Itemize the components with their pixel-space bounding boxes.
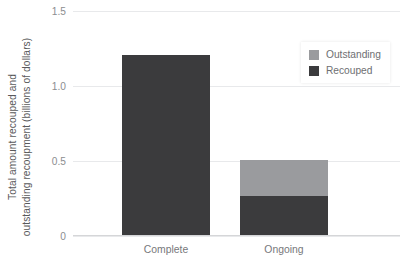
- y-tick-label: 0: [60, 231, 66, 242]
- gridline-0: [73, 236, 400, 237]
- y-tick-label: 1.5: [52, 6, 66, 17]
- x-axis-label-complete: Complete: [144, 244, 188, 255]
- legend: Outstanding Recouped: [301, 42, 390, 83]
- legend-item-outstanding[interactable]: Outstanding: [309, 49, 381, 60]
- bar-segment-recouped[interactable]: [240, 196, 328, 235]
- bar-complete[interactable]: Complete: [122, 55, 210, 235]
- y-axis-title: Total amount recouped and outstanding re…: [0, 0, 40, 274]
- legend-label-outstanding: Outstanding: [326, 49, 381, 60]
- y-tick-label: 0.5: [52, 156, 66, 167]
- bar-ongoing[interactable]: Ongoing: [240, 160, 328, 235]
- legend-item-recouped[interactable]: Recouped: [309, 65, 381, 76]
- x-axis-line: [73, 235, 400, 236]
- legend-swatch-outstanding: [309, 50, 319, 60]
- legend-swatch-recouped: [309, 66, 319, 76]
- legend-label-recouped: Recouped: [326, 65, 372, 76]
- bar-segment-recouped[interactable]: [122, 55, 210, 235]
- x-axis-label-ongoing: Ongoing: [264, 244, 303, 255]
- gridline-1.5: [73, 11, 400, 12]
- bar-segment-outstanding[interactable]: [240, 160, 328, 196]
- y-tick-label: 1.0: [52, 81, 66, 92]
- bar-chart: Total amount recouped and outstanding re…: [0, 0, 413, 274]
- y-axis-title-line-2: outstanding recoupment (billions of doll…: [20, 38, 34, 237]
- y-axis-title-line-1: Total amount recouped and: [6, 38, 20, 237]
